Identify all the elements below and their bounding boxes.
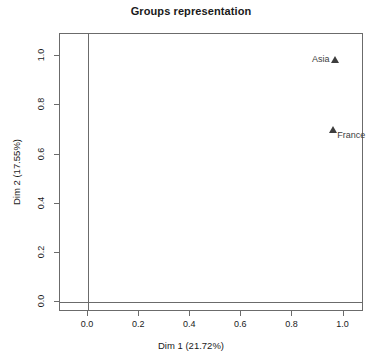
y-axis-tick: [54, 104, 59, 105]
y-axis-tick: [54, 154, 59, 155]
y-axis-tick-label: 0.2: [36, 246, 46, 259]
reference-line-horizontal: [60, 302, 362, 303]
y-axis-tick: [54, 55, 59, 56]
chart-title: Groups representation: [0, 5, 382, 17]
x-axis-tick: [343, 311, 344, 316]
x-axis-tick: [189, 311, 190, 316]
chart-figure: Groups representation AsiaFrance 0.00.20…: [0, 0, 382, 363]
plot-area: AsiaFrance: [59, 33, 363, 311]
y-axis-tick-label: 1.0: [36, 49, 46, 62]
x-axis-tick-label: 0.2: [132, 319, 145, 329]
y-axis-tick-label: 0.6: [36, 147, 46, 160]
y-axis-tick-label: 0.8: [36, 98, 46, 111]
x-axis-tick-label: 0.0: [81, 319, 94, 329]
x-axis-tick-label: 0.8: [285, 319, 298, 329]
y-axis-tick: [54, 301, 59, 302]
y-axis-tick: [54, 252, 59, 253]
x-axis-tick-label: 0.4: [183, 319, 196, 329]
x-axis-label: Dim 1 (21.72%): [0, 340, 382, 351]
y-axis-tick-label: 0.0: [36, 295, 46, 308]
data-point-label: France: [337, 131, 365, 140]
x-axis-tick: [138, 311, 139, 316]
y-axis-tick-label: 0.4: [36, 196, 46, 209]
x-axis-tick-label: 1.0: [336, 319, 349, 329]
reference-line-vertical: [88, 34, 89, 310]
data-point-label: Asia: [312, 55, 330, 64]
x-axis-tick: [240, 311, 241, 316]
y-axis-label: Dim 2 (17.55%): [11, 139, 22, 205]
triangle-marker-icon: [329, 126, 337, 133]
x-axis-tick: [87, 311, 88, 316]
y-axis-tick: [54, 203, 59, 204]
triangle-marker-icon: [331, 56, 339, 63]
x-axis-tick-label: 0.6: [234, 319, 247, 329]
x-axis-tick: [291, 311, 292, 316]
